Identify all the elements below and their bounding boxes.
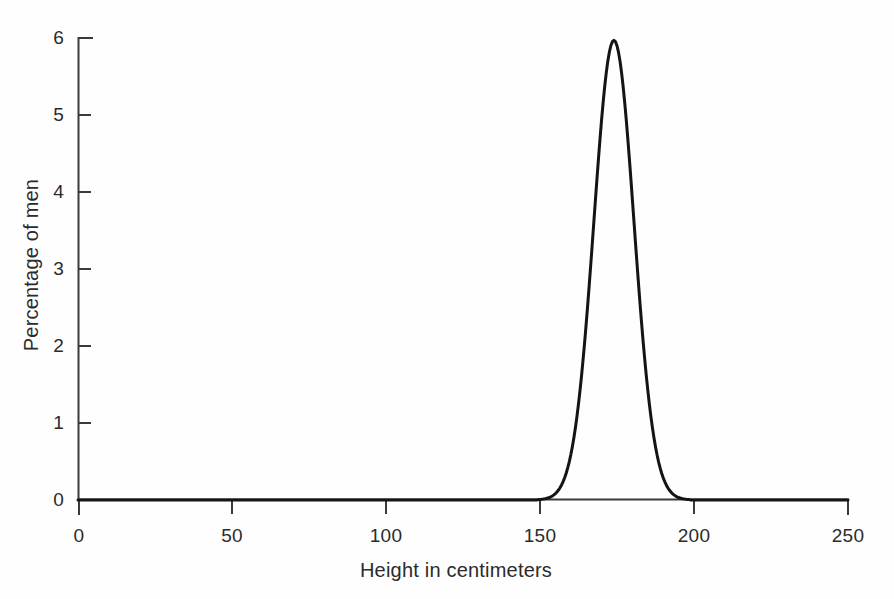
x-axis-title: Height in centimeters [360,559,552,582]
y-axis-title: Percentage of men [20,179,43,351]
x-tick-label-200: 200 [678,525,711,547]
data-series-curve [78,40,848,500]
chart-figure: 6 5 4 3 2 1 0 0 50 100 150 200 250 Heigh… [0,0,894,599]
x-tick-label-100: 100 [370,525,403,547]
x-tick-label-50: 50 [221,525,243,547]
chart-plot-area [0,0,894,599]
y-tick-label-5: 5 [34,104,64,126]
y-tick-label-0: 0 [34,489,64,511]
y-tick-marks [78,38,93,500]
x-tick-label-0: 0 [74,525,85,547]
x-tick-label-150: 150 [524,525,557,547]
x-tick-marks [79,500,848,515]
x-tick-label-250: 250 [832,525,865,547]
y-tick-label-6: 6 [34,27,64,49]
y-tick-label-1: 1 [34,412,64,434]
